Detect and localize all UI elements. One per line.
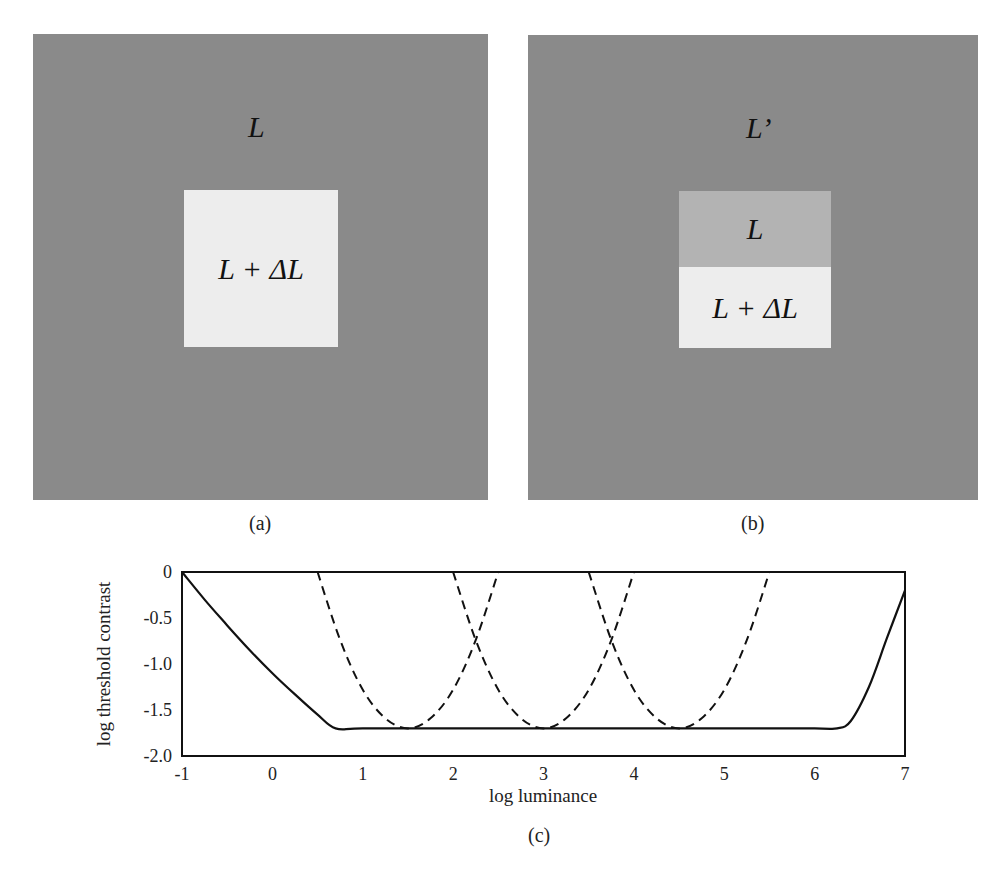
adaptation-curve-dashed-3 (589, 572, 770, 728)
x-tick-label: -1 (175, 764, 190, 784)
x-tick-label: 6 (810, 764, 819, 784)
x-tick-label: 3 (539, 764, 548, 784)
adaptation-curve-dashed-2 (453, 572, 634, 728)
x-tick-label: 2 (449, 764, 458, 784)
threshold-curve-solid (182, 572, 905, 729)
y-axis-label: log threshold contrast (93, 581, 114, 746)
y-tick-label: -1.5 (144, 700, 173, 720)
y-tick-label: -0.5 (144, 608, 173, 628)
chart-curves (182, 572, 905, 729)
x-tick-labels: -101234567 (175, 764, 910, 784)
x-axis-label: log luminance (489, 785, 597, 806)
threshold-chart: -101234567 0-0.5-1.0-1.5-2.0 log luminan… (0, 0, 991, 881)
y-tick-labels: 0-0.5-1.0-1.5-2.0 (144, 562, 173, 766)
x-tick-label: 5 (720, 764, 729, 784)
x-tick-label: 4 (629, 764, 638, 784)
caption-c: (c) (528, 824, 550, 847)
y-tick-label: -2.0 (144, 746, 173, 766)
adaptation-curve-dashed-1 (318, 572, 499, 728)
x-tick-label: 7 (901, 764, 910, 784)
x-tick-label: 0 (268, 764, 277, 784)
x-tick-label: 1 (358, 764, 367, 784)
y-tick-label: 0 (163, 562, 172, 582)
y-tick-label: -1.0 (144, 654, 173, 674)
